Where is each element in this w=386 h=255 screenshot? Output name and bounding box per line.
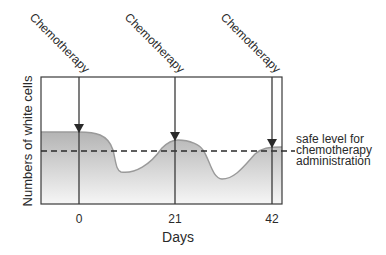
y-axis-label: Numbers of white cells bbox=[20, 75, 35, 206]
x-tick-42: 42 bbox=[265, 212, 279, 226]
white-cell-area bbox=[41, 132, 282, 204]
event-label-day-0: Chemotherapy bbox=[27, 10, 93, 76]
event-label-day-42: Chemotherapy bbox=[218, 10, 284, 76]
x-tick-0: 0 bbox=[76, 212, 83, 226]
x-axis-label: Days bbox=[162, 229, 194, 245]
event-label-day-21: Chemotherapy bbox=[122, 10, 188, 76]
threshold-label-line-3: administration bbox=[296, 154, 371, 168]
x-tick-21: 21 bbox=[168, 212, 182, 226]
chemotherapy-diagram: Chemotherapy Chemotherapy Chemotherapy N… bbox=[0, 0, 386, 255]
